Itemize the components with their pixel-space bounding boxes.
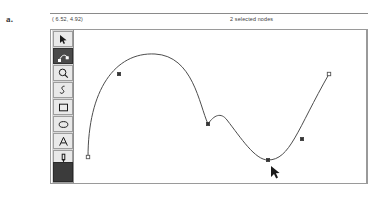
figure-label: a. — [6, 14, 13, 24]
node-selected-upper[interactable] — [117, 72, 120, 75]
figure-panel: a. ( 6.52, 4.92) 2 selected nodes — [0, 0, 384, 200]
arrow-cursor-icon — [58, 34, 69, 45]
selection-status-label: 2 selected nodes — [230, 16, 273, 22]
node-handles-layer — [86, 72, 330, 161]
rectangle-icon — [58, 102, 69, 113]
magnifier-icon — [58, 68, 69, 79]
ellipse-icon — [58, 119, 69, 130]
select-arrow-tool[interactable] — [53, 31, 73, 47]
bezier-curve[interactable] — [88, 54, 329, 160]
pen-tool[interactable] — [53, 82, 73, 98]
pen-icon — [58, 85, 69, 96]
drawing-canvas[interactable] — [75, 30, 366, 183]
node-endpoint-right[interactable] — [327, 72, 330, 75]
zoom-tool[interactable] — [53, 65, 73, 81]
node-edit-icon — [58, 51, 69, 62]
node-endpoint-left[interactable] — [86, 155, 89, 158]
rectangle-tool[interactable] — [53, 99, 73, 115]
color-swatch-block[interactable] — [53, 162, 73, 182]
text-tool[interactable] — [53, 133, 73, 149]
node-edit-tool[interactable] — [53, 48, 73, 64]
text-a-icon — [58, 136, 69, 147]
node-cusp[interactable] — [206, 122, 209, 125]
node-selected-bottom[interactable] — [266, 158, 269, 161]
mouse-cursor-layer — [271, 166, 280, 178]
status-bar: ( 6.52, 4.92) 2 selected nodes — [50, 13, 368, 28]
ellipse-tool[interactable] — [53, 116, 73, 132]
tool-palette[interactable] — [52, 30, 74, 183]
node-right-slope[interactable] — [300, 137, 303, 140]
coordinate-readout: ( 6.52, 4.92) — [52, 16, 83, 22]
mouse-pointer-icon — [271, 166, 280, 178]
